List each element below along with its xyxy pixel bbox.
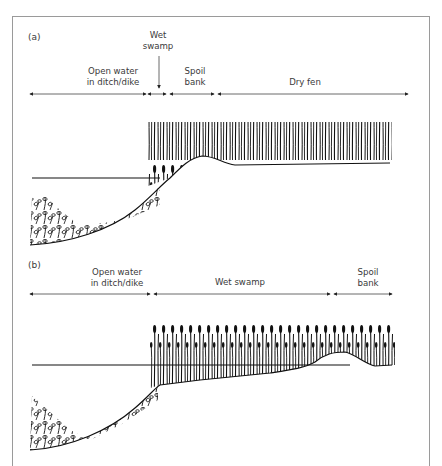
panel-a-arrows [30, 56, 408, 94]
reed-vegetation-a [148, 122, 392, 186]
reed-vegetation-b [150, 322, 395, 388]
submerged-vegetation-a [30, 186, 160, 245]
submerged-vegetation-b [30, 386, 158, 450]
